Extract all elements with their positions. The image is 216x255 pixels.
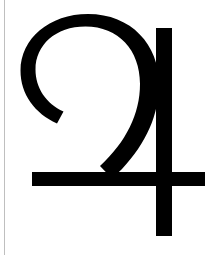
jupiter-symbol-glyph: Jupiter planetary symbol (0, 0, 216, 255)
crescent-hook-stroke (21, 14, 160, 179)
vertical-stem-stroke (156, 28, 172, 236)
horizontal-crossbar-stroke (32, 172, 205, 186)
jupiter-symbol-svg: Jupiter planetary symbol (0, 0, 216, 255)
image-canvas: Jupiter planetary symbol ♃ Jupiter (0, 0, 216, 255)
